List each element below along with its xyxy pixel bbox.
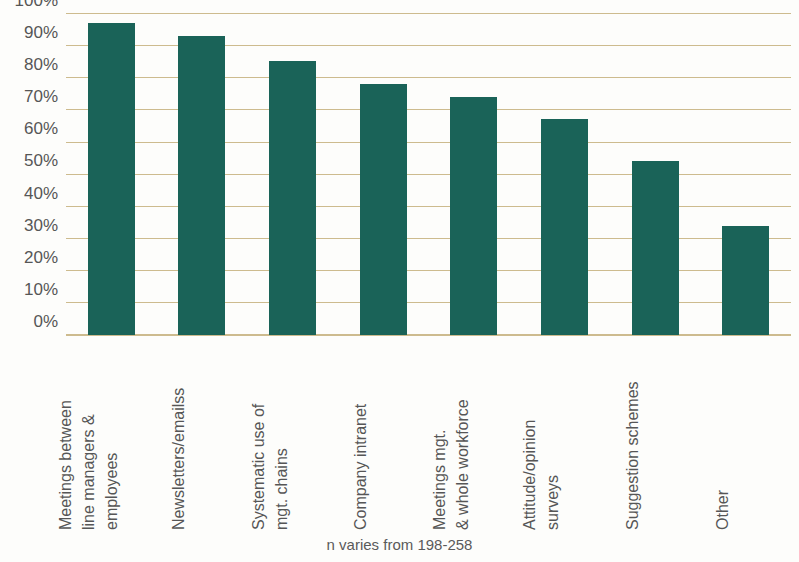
x-axis-label-line: employees [123, 340, 146, 530]
x-axis-label-group-2: Systematic use ofmgt. chains [270, 340, 316, 530]
bar-attitude-opinion-surveys[interactable] [541, 119, 588, 335]
x-axis-label-group-3: Company intranet [372, 340, 395, 530]
x-axis-label-text: Meetings between [54, 340, 77, 530]
bar-systematic-use-mgt-chains[interactable] [269, 61, 316, 335]
y-tick-label-80: 80% [24, 55, 58, 75]
bar-meetings-mgt-whole-workforce[interactable] [450, 97, 497, 335]
bar-other[interactable] [722, 226, 769, 335]
x-axis-label-line: Company intranet [372, 340, 395, 530]
y-tick-label-100: 100% [15, 0, 58, 11]
x-axis-label-text: Meetings mgt. [428, 340, 451, 530]
bar-meetings-line-managers-employees[interactable] [88, 23, 135, 335]
bars-layer [66, 13, 791, 335]
bar-company-intranet[interactable] [360, 84, 407, 335]
y-tick-label-90: 90% [24, 23, 58, 43]
x-axis-label-line: Suggestion schemes [644, 340, 667, 530]
chart-annotation: n varies from 198-258 [0, 536, 799, 553]
x-axis-label-line: surveys [564, 340, 587, 530]
x-axis-label-text: Company intranet [349, 340, 372, 530]
x-axis-label-text: Attitude/opinion [518, 340, 541, 530]
y-tick-label-60: 60% [24, 119, 58, 139]
bar-suggestion-schemes[interactable] [632, 161, 679, 335]
x-axis-label-text: Systematic use of [247, 340, 270, 530]
x-axis-label-line: & whole workforce [474, 340, 497, 530]
y-tick-label-0: 0% [33, 312, 58, 332]
x-axis-labels: Meetings betweenline managers &employees… [66, 340, 791, 535]
x-axis-label-text: Suggestion schemes [621, 340, 644, 530]
y-tick-label-70: 70% [24, 87, 58, 107]
y-tick-label-50: 50% [24, 151, 58, 171]
x-axis-label-group-6: Suggestion schemes [644, 340, 667, 530]
x-axis-label-group-1: Newsletters/emailss [190, 340, 213, 530]
x-axis-label-group-7: Other [734, 340, 757, 530]
x-axis-label-text: line managers & [77, 340, 100, 530]
x-axis-label-group-5: Attitude/opinionsurveys [541, 340, 587, 530]
bar-newsletters-emails[interactable] [178, 36, 225, 335]
y-tick-label-10: 10% [24, 280, 58, 300]
x-axis-label-line: Other [734, 340, 757, 530]
y-axis: 0% 10% 20% 30% 40% 50% 60% 70% 80% 90% 1… [0, 0, 66, 348]
bar-chart: 0% 10% 20% 30% 40% 50% 60% 70% 80% 90% 1… [0, 0, 799, 562]
x-axis-label-text: & whole workforce [451, 340, 474, 530]
x-axis-label-group-4: Meetings mgt.& whole workforce [451, 340, 497, 530]
x-axis-label-text: surveys [541, 340, 564, 530]
y-tick-label-30: 30% [24, 216, 58, 236]
y-tick-label-40: 40% [24, 184, 58, 204]
x-axis-label-text: Newsletters/emailss [167, 340, 190, 530]
x-axis-label-line: mgt. chains [293, 340, 316, 530]
x-axis-label-text: mgt. chains [270, 340, 293, 530]
x-axis-label-line: Newsletters/emailss [190, 340, 213, 530]
y-tick-label-20: 20% [24, 248, 58, 268]
x-axis-label-group-0: Meetings betweenline managers &employees [77, 340, 146, 530]
x-axis-label-text: employees [100, 340, 123, 530]
x-axis-label-text: Other [711, 340, 734, 530]
